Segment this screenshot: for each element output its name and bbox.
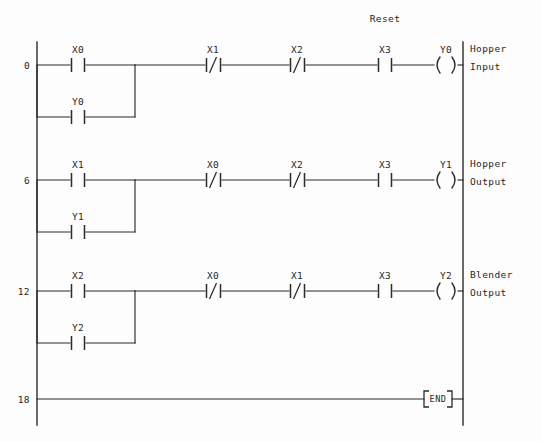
annotation-reset: Reset: [370, 14, 401, 24]
rung-0-label-x1: X1: [207, 45, 219, 55]
rung-0: [37, 57, 463, 124]
rung-0-contact-x1: [207, 57, 221, 73]
rung-number-6: 6: [24, 176, 30, 186]
rung-6-label-x2: X2: [291, 160, 303, 170]
end-block-label: END: [429, 395, 446, 404]
rung-6-contact-x1: [72, 173, 85, 187]
rung-0-coil-y0: [437, 57, 455, 73]
rung-12-label-x2: X2: [72, 271, 84, 281]
rung-number-12: 12: [18, 287, 30, 297]
rung-0-comment-line1: Hopper: [470, 44, 507, 54]
rung-12-branch-label-y2: Y2: [72, 323, 84, 333]
rung-0-label-x0: X0: [72, 45, 84, 55]
rung-0-branch-label-y0: Y0: [72, 97, 84, 107]
rung-12-contact-x0: [207, 283, 221, 299]
rung-18-end: [37, 391, 463, 407]
rung-0-comment-line2: Input: [470, 62, 501, 72]
rung-12-comment-line1: Blender: [470, 270, 513, 280]
rung-12-label-x1: X1: [291, 271, 303, 281]
rung-0-contact-x2: [291, 57, 305, 73]
end-bracket-right: [447, 391, 452, 407]
rung-12-label-x0: X0: [207, 271, 219, 281]
rung-6-label-x1: X1: [72, 160, 84, 170]
rung-12-contact-x3: [379, 284, 392, 298]
rung-6-label-y1-coil: Y1: [440, 160, 452, 170]
rung-number-18: 18: [18, 395, 30, 405]
rung-12-contact-x1: [291, 283, 305, 299]
rung-6-comment-line1: Hopper: [470, 159, 507, 169]
rung-12: [37, 283, 463, 350]
rung-6: [37, 172, 463, 239]
rung-number-0: 0: [24, 61, 30, 71]
rung-12-label-x3: X3: [379, 271, 391, 281]
rung-6-label-x3: X3: [379, 160, 391, 170]
end-bracket-left: [424, 391, 429, 407]
rung-6-coil-y1: [437, 172, 455, 188]
rung-0-label-x3: X3: [379, 45, 391, 55]
rung-6-contact-x3: [379, 173, 392, 187]
rung-6-branch-contact-y1: [72, 225, 85, 239]
rung-6-contact-x2: [291, 172, 305, 188]
rung-12-comment-line2: Output: [470, 288, 507, 298]
rung-0-contact-x0: [72, 58, 85, 72]
rung-12-label-y2-coil: Y2: [440, 271, 452, 281]
rung-6-comment-line2: Output: [470, 177, 507, 187]
ladder-logic-diagram: Reset 0 X0 X1 X2 X3 Y0 Y0 Hopper Input 6…: [0, 0, 541, 442]
rung-0-branch-contact-y0: [72, 110, 85, 124]
rung-6-contact-x0: [207, 172, 221, 188]
rung-0-label-y0-coil: Y0: [440, 45, 452, 55]
rung-6-label-x0: X0: [207, 160, 219, 170]
rung-6-branch-label-y1: Y1: [72, 212, 84, 222]
rung-12-branch-contact-y2: [72, 336, 85, 350]
rung-0-contact-x3: [379, 58, 392, 72]
rung-12-contact-x2: [72, 284, 85, 298]
rung-0-label-x2: X2: [291, 45, 303, 55]
rung-12-coil-y2: [437, 283, 455, 299]
